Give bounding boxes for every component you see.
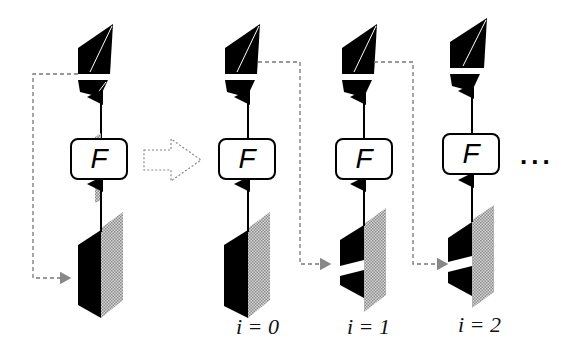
function-box-left: F (70, 138, 128, 180)
function-box-i1: F (335, 138, 393, 180)
iteration-label-0-text: i = 0 (236, 314, 279, 339)
function-box-i0: F (218, 138, 276, 180)
output-shape-i0 (225, 24, 260, 97)
iteration-label-2-text: i = 2 (458, 312, 501, 337)
iteration-label-1-text: i = 1 (347, 314, 390, 339)
output-shape-left (78, 24, 113, 97)
function-box-i2: F (442, 133, 500, 175)
iteration-label-1: i = 1 (347, 314, 390, 340)
continuation-ellipsis: ... (520, 140, 554, 171)
iterative-refinement-diagram: F F F F ... i = 0 i = 1 i = 2 (0, 0, 577, 354)
iteration-label-0: i = 0 (236, 314, 279, 340)
transform-arrow-icon (144, 139, 201, 181)
output-shape-i1 (342, 24, 377, 97)
output-shape-i2 (450, 18, 487, 91)
iteration-label-2: i = 2 (458, 312, 501, 338)
